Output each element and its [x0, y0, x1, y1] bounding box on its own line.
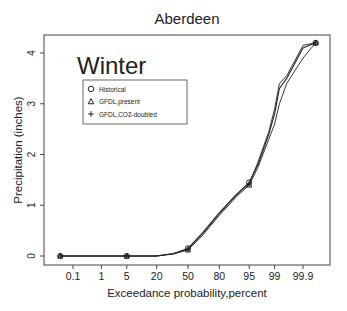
- legend-label: Historical: [99, 86, 126, 93]
- x-tick-label: 0.1: [66, 270, 81, 282]
- x-tick-label: 50: [182, 270, 194, 282]
- y-tick-label: 4: [26, 50, 37, 56]
- season-annotation: Winter: [77, 52, 146, 79]
- x-axis-label: Exceedance probability,percent: [107, 287, 267, 299]
- chart-title: Aberdeen: [154, 10, 219, 27]
- x-tick-label: 95: [243, 270, 255, 282]
- legend-label: GFDL,present: [99, 98, 140, 106]
- x-tick-label: 5: [124, 270, 130, 282]
- x-axis: 0.115205080959999.9: [66, 265, 314, 282]
- y-tick-label: 0: [26, 253, 37, 259]
- x-tick-label: 1: [99, 270, 105, 282]
- y-tick-label: 2: [26, 151, 37, 157]
- y-axis-label: Precipitation (inches): [12, 96, 24, 204]
- y-tick-label: 1: [26, 202, 37, 208]
- legend: HistoricalGFDL,presentGFDL,CO2-doubled: [83, 80, 187, 124]
- exceedance-chart: Aberdeen 01234 0.115205080959999.9 Excee…: [0, 0, 347, 311]
- x-tick-label: 20: [151, 270, 163, 282]
- y-tick-label: 3: [26, 101, 37, 107]
- x-tick-label: 99.9: [293, 270, 314, 282]
- x-tick-label: 99: [269, 270, 281, 282]
- x-tick-label: 80: [213, 270, 225, 282]
- legend-label: GFDL,CO2-doubled: [99, 111, 157, 118]
- y-axis: 01234: [26, 50, 44, 259]
